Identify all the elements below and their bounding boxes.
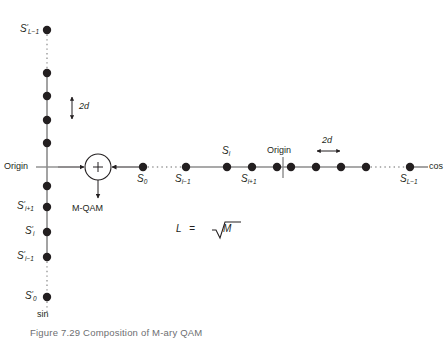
constellation-dot [223, 163, 231, 171]
label-s-i-minus-1-horizontal: Si−1 [175, 174, 191, 184]
vertical-origin-label: Origin [4, 162, 28, 171]
constellation-dot [43, 116, 51, 124]
constellation-dot [43, 293, 51, 301]
constellation-dot [406, 163, 414, 171]
cos-axis-label: cos [429, 162, 443, 171]
constellation-dot [337, 163, 345, 171]
label-s-i-horizontal: Si [222, 146, 230, 156]
horizontal-origin-label: Origin [267, 146, 291, 155]
constellation-dot [273, 163, 281, 171]
constellation-dot [139, 163, 147, 171]
summer-group [58, 154, 143, 198]
label-s-0-horizontal: S0 [137, 174, 147, 184]
constellation-dot [43, 203, 51, 211]
label-s-prime-L-minus-1-vertical: S′L−1 [20, 24, 39, 34]
constellation-dot [362, 163, 370, 171]
constellation-dot [43, 139, 51, 147]
figure-caption: Figure 7.29 Composition of M-ary QAM [30, 327, 202, 338]
horizontal-spacing-label: 2d [322, 136, 332, 145]
vertical-spacing-label: 2d [79, 102, 89, 111]
constellation-dot [43, 26, 51, 34]
constellation-dot [287, 163, 295, 171]
constellation-dot [43, 228, 51, 236]
label-s-prime-i-minus-1: S′i−1 [17, 251, 34, 261]
label-s-prime-i-plus-1: S′i+1 [17, 201, 34, 211]
constellation-dot [312, 163, 320, 171]
constellation-dot [182, 163, 190, 171]
label-s-prime-i: S′i [25, 226, 34, 236]
sin-axis-label: sin [37, 310, 49, 319]
constellation-dot [43, 92, 51, 100]
label-s-prime-0: S′0 [25, 291, 37, 301]
constellation-dot [43, 69, 51, 77]
constellation-dot [43, 182, 51, 190]
m-qam-output-label: M-QAM [72, 204, 103, 213]
label-s-i-plus-1-horizontal: Si+1 [241, 174, 257, 184]
label-s-L-minus-1-horizontal: SL−1 [400, 174, 418, 184]
constellation-dot [43, 253, 51, 261]
vertical-axis-group [36, 26, 72, 312]
formula-L-equals-sqrt-M: L = M [176, 224, 231, 234]
constellation-dot [248, 163, 256, 171]
